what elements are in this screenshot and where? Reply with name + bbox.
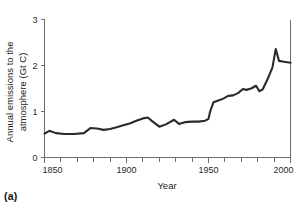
- data-line-annual-emissions: [45, 49, 291, 134]
- y-tick-label: 0: [32, 153, 37, 163]
- y-axis-title-line-2: atmosphere (Gt C): [17, 53, 28, 132]
- data-series-group: [45, 49, 291, 134]
- x-tick-label: 1950: [198, 165, 218, 175]
- y-tick-label: 3: [32, 15, 37, 25]
- axis-lines: [45, 20, 291, 158]
- x-tick-label: 1900: [116, 165, 136, 175]
- y-axis-ticks: 0123: [32, 15, 44, 163]
- y-axis-title: Annual emissions to the atmosphere (Gt C…: [4, 42, 28, 143]
- x-tick-label: 1850: [43, 165, 63, 175]
- figure-panel-a: Annual emissions to the atmosphere (Gt C…: [0, 0, 306, 217]
- plot-frame: [45, 20, 291, 158]
- x-tick-label: 2000: [273, 165, 293, 175]
- x-axis-title: Year: [157, 180, 176, 191]
- y-axis-title-line-1: Annual emissions to the: [4, 42, 15, 143]
- x-axis-ticks: 1850190019502000: [43, 158, 294, 175]
- y-tick-label: 1: [32, 107, 37, 117]
- emissions-line-chart: Annual emissions to the atmosphere (Gt C…: [0, 0, 306, 217]
- y-tick-label: 2: [32, 61, 37, 71]
- panel-caption: (a): [4, 190, 17, 202]
